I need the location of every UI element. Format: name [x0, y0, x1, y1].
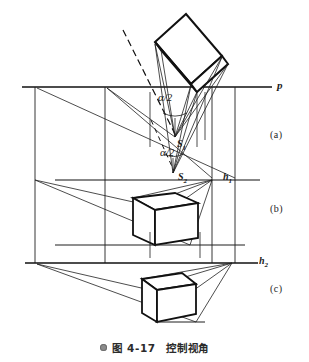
bullet-circle-icon [100, 344, 107, 351]
part-b-label: (b) [270, 204, 283, 214]
horizon-1-label: h1 [223, 172, 232, 185]
station-2-subscript: 2 [184, 177, 188, 185]
horizon-2-subscript: 2 [265, 261, 269, 269]
station-1-subscript: 1 [183, 144, 187, 152]
part-c-label: (c) [270, 284, 283, 294]
angle-arc-s1 [163, 113, 187, 116]
station-point-1-label: S1 [177, 139, 186, 152]
horizon-1-subscript: 1 [229, 177, 233, 185]
view-angle-lower-label: α/2 [160, 147, 174, 158]
box-b-right-face [155, 203, 198, 245]
vanishing-rays-h2 [37, 263, 232, 322]
horizon-2-label: h2 [259, 256, 268, 269]
caption-text: 图 4-17 控制视角 [112, 340, 209, 355]
picture-plane-label: p [277, 80, 283, 91]
perspective-construction-diagram [0, 0, 309, 330]
view-angle-upper-label: α/2 [158, 92, 172, 103]
box-c-right-face [157, 284, 196, 322]
figure-container: p h1 h2 S1 S2 α/2 α/2 (a) (b) (c) 图 4-17… [0, 0, 309, 362]
perspective-box-b [133, 193, 198, 245]
station-point-2-label: S2 [178, 172, 187, 185]
part-a-label: (a) [270, 130, 283, 140]
perspective-box-c [142, 273, 196, 322]
figure-caption: 图 4-17 控制视角 [0, 336, 309, 358]
